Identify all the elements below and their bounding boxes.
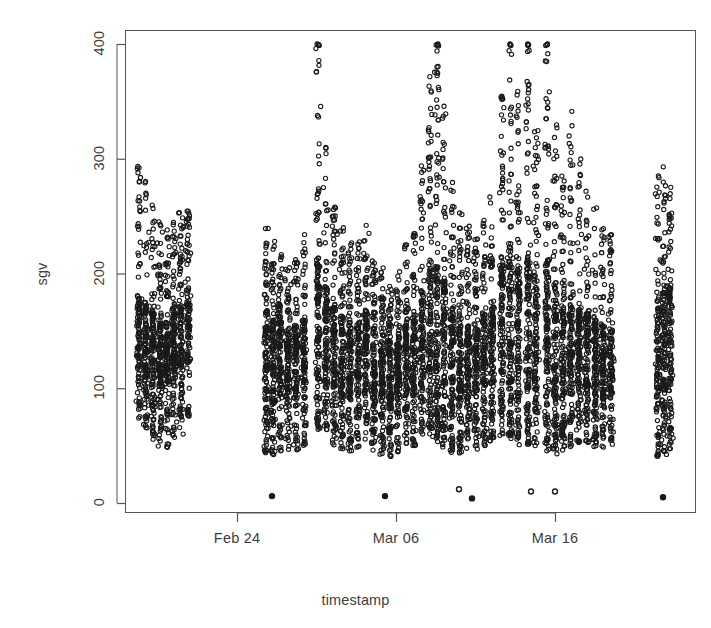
x-axis-title: timestamp — [0, 592, 711, 608]
y-axis-title: sgv — [34, 262, 50, 285]
y-tick-label: 0 — [91, 479, 107, 525]
x-tick-label: Mar 16 — [495, 530, 615, 546]
x-tick-label: Feb 24 — [177, 530, 297, 546]
y-tick-label: 100 — [91, 364, 107, 410]
x-tick-label: Mar 06 — [336, 530, 456, 546]
data-points-layer — [134, 42, 675, 501]
y-tick-label: 400 — [91, 20, 107, 66]
scatter-plot-figure: sgv timestamp 0100200300400 Feb 24Mar 06… — [0, 0, 711, 628]
y-tick-label: 300 — [91, 135, 107, 181]
y-tick-label: 200 — [91, 250, 107, 296]
